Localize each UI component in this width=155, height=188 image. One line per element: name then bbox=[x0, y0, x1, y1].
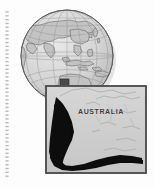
figure-container: AUSTRALIA bbox=[0, 0, 155, 188]
inset-map-label: AUSTRALIA bbox=[78, 108, 124, 115]
figure-artwork bbox=[0, 0, 155, 188]
inset-map-australia[interactable] bbox=[46, 86, 146, 173]
